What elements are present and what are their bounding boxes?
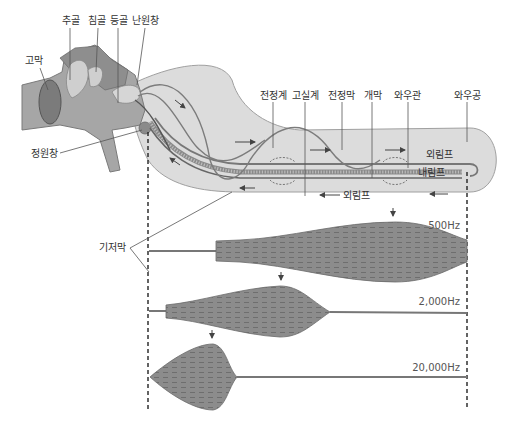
- label-perilymph-lower: 외림프: [343, 190, 370, 201]
- panel-20000hz: 20,000Hz: [150, 330, 467, 410]
- label-scala-vestibuli: 전정계: [260, 90, 287, 101]
- label-reissner-membrane: 전정막: [328, 90, 355, 101]
- label-round-window: 정원창: [31, 148, 58, 159]
- eardrum: [39, 80, 61, 124]
- label-eardrum: 고막: [25, 55, 43, 66]
- cochlea-diagram: 추골 침골 등골 난원창 고막 정원창 전정계 고실계 전정막 개막 와우관 와…: [0, 0, 520, 430]
- freq-label-2000: 2,000Hz: [419, 296, 460, 307]
- freq-label-20000: 20,000Hz: [412, 362, 460, 373]
- label-endolymph: 내림프: [418, 167, 445, 178]
- label-helicotrema: 와우공: [454, 90, 481, 101]
- label-stapes: 등골: [110, 15, 128, 26]
- label-cochlear-duct: 와우관: [394, 90, 421, 101]
- label-incus: 침골: [88, 15, 106, 26]
- label-malleus: 추골: [62, 15, 80, 26]
- label-oval-window: 난원창: [132, 15, 159, 26]
- panel-500hz: 500Hz: [149, 208, 467, 282]
- freq-label-500: 500Hz: [428, 220, 460, 231]
- label-tectorial-membrane: 개막: [364, 90, 382, 101]
- label-scala-tympani: 고실계: [292, 90, 319, 101]
- label-perilymph-upper: 외림프: [426, 149, 453, 160]
- label-basilar-membrane: 기저막: [99, 242, 126, 253]
- panel-2000hz: 2,000Hz: [149, 272, 467, 337]
